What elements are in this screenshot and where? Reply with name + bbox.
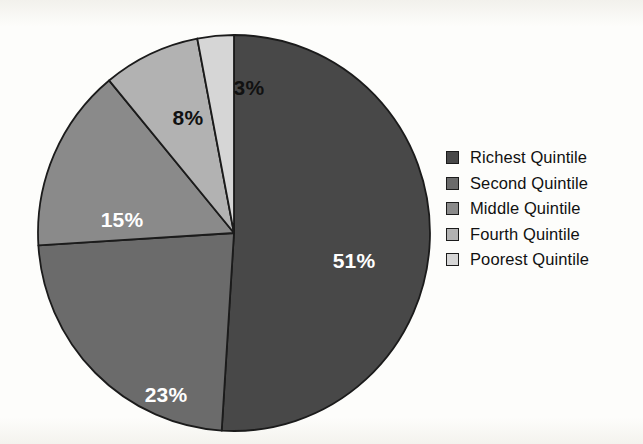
pie-chart-plot-area: 51%23%15%8%3% [36,34,432,432]
legend-item-label: Richest Quintile [470,148,587,167]
legend-item[interactable]: Second Quintile [446,171,636,197]
legend-item-label: Second Quintile [470,174,588,193]
legend-item-label: Poorest Quintile [470,250,589,269]
legend-item[interactable]: Middle Quintile [446,196,636,222]
pie-slice[interactable] [38,233,234,431]
legend-swatch-icon [446,151,459,164]
legend-item[interactable]: Fourth Quintile [446,222,636,248]
pie-data-label: 23% [145,383,188,406]
legend-item-label: Fourth Quintile [470,225,580,244]
pie-chart-figure: 51%23%15%8%3% Richest QuintileSecond Qui… [0,0,643,444]
legend-item[interactable]: Poorest Quintile [446,247,636,273]
legend-swatch-icon [446,202,459,215]
pie-chart-svg: 51%23%15%8%3% [36,34,432,432]
legend-item-label: Middle Quintile [470,199,581,218]
legend-swatch-icon [446,228,459,241]
chart-legend: Richest QuintileSecond QuintileMiddle Qu… [446,145,636,273]
pie-data-label: 3% [234,76,265,99]
pie-data-label: 15% [101,208,144,231]
pie-data-label: 8% [173,106,204,129]
legend-swatch-icon [446,253,459,266]
legend-item[interactable]: Richest Quintile [446,145,636,171]
legend-swatch-icon [446,177,459,190]
pie-data-label: 51% [333,249,376,272]
